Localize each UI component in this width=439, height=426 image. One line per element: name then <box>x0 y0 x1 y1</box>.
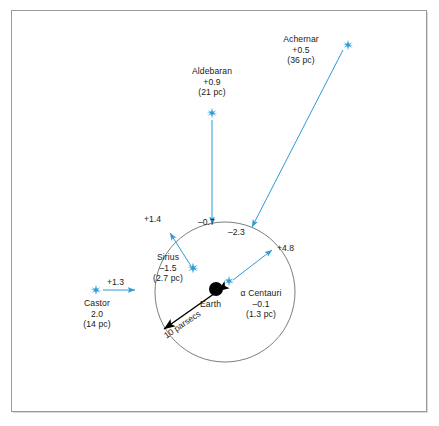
castor-label: Castor 2.0 (14 pc) <box>65 298 129 330</box>
castor-distance: (14 pc) <box>65 319 129 330</box>
sirius-distance: (2.7 pc) <box>141 273 195 284</box>
castor-magnitude: 2.0 <box>65 309 129 320</box>
alpha-centauri-arrow <box>233 250 272 280</box>
aldebaran-distance: (21 pc) <box>157 87 267 98</box>
earth-dot-icon <box>209 282 223 296</box>
magnitude-sirius: +1.4 <box>144 214 161 224</box>
magnitude-achernar: –2.3 <box>228 227 245 237</box>
achernar-name: Achernar <box>266 34 336 45</box>
sirius-label: Sirius –1.5 (2.7 pc) <box>141 252 195 284</box>
magnitude-aldebaran: –0.7 <box>198 217 215 227</box>
achernar-magnitude: +0.5 <box>266 45 336 56</box>
castor-name: Castor <box>65 298 129 309</box>
achernar-distance: (36 pc) <box>266 55 336 66</box>
alpha-centauri-name: α Centauri <box>223 288 299 299</box>
magnitude-castor: +1.3 <box>107 277 124 287</box>
alpha-centauri-distance: (1.3 pc) <box>223 309 299 320</box>
sirius-magnitude: –1.5 <box>141 263 195 274</box>
achernar-star-icon <box>343 40 353 50</box>
sirius-name: Sirius <box>141 252 195 263</box>
aldebaran-name: Aldebaran <box>157 66 267 77</box>
magnitude-alpha-centauri: +4.8 <box>277 243 294 253</box>
alpha-centauri-label: α Centauri –0.1 (1.3 pc) <box>223 288 299 320</box>
earth-label: Earth <box>200 299 221 310</box>
aldebaran-star-icon <box>207 108 217 118</box>
aldebaran-label: Aldebaran +0.9 (21 pc) <box>157 66 267 98</box>
alpha-centauri-star-icon <box>224 276 234 286</box>
achernar-label: Achernar +0.5 (36 pc) <box>266 34 336 66</box>
aldebaran-magnitude: +0.9 <box>157 77 267 88</box>
castor-star-icon <box>91 285 101 295</box>
diagram-canvas <box>0 0 439 426</box>
figure-root: Aldebaran +0.9 (21 pc) Achernar +0.5 (36… <box>0 0 439 426</box>
alpha-centauri-magnitude: –0.1 <box>223 299 299 310</box>
